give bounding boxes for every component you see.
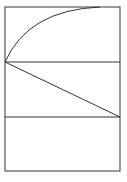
- curved-arc: [5, 7, 100, 62]
- diagonal-line: [5, 62, 120, 117]
- geometric-diagram: [0, 0, 127, 182]
